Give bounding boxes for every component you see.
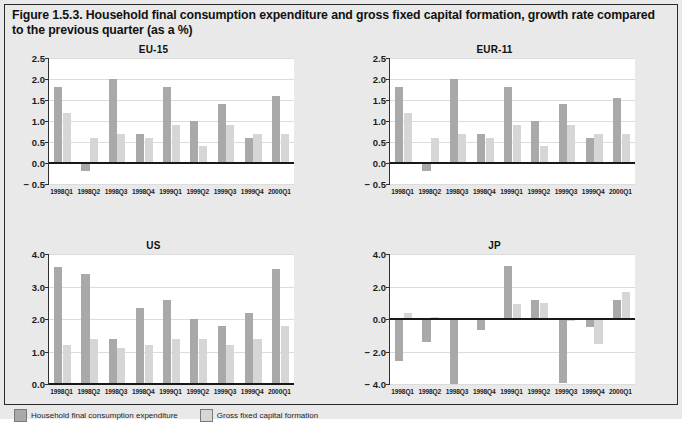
- bar: [226, 125, 234, 163]
- x-tick-label: 1998Q1: [50, 188, 73, 195]
- gridline: [390, 100, 635, 101]
- y-tick-mark: [45, 79, 49, 80]
- y-tick-mark: [45, 352, 49, 353]
- x-tick-label: 2000Q1: [268, 188, 291, 195]
- bar: [531, 121, 539, 163]
- y-tick-label: 2.5: [32, 53, 45, 64]
- bar: [253, 134, 261, 163]
- bar: [504, 266, 512, 319]
- y-tick-label: 0.0: [32, 379, 45, 390]
- bar: [63, 113, 71, 163]
- plot-inner: [390, 58, 635, 184]
- bar: [136, 308, 144, 384]
- chart-panel-us: US0.01.02.03.04.01998Q11998Q21998Q31998Q…: [14, 240, 293, 402]
- y-tick-mark: [386, 384, 390, 385]
- bar: [172, 339, 180, 385]
- panel-title: JP: [355, 240, 634, 251]
- bar: [540, 303, 548, 319]
- y-tick-mark: [386, 287, 390, 288]
- light-gray-swatch: [200, 409, 213, 422]
- y-tick-mark: [386, 100, 390, 101]
- x-tick-label: 1999Q1: [159, 188, 182, 195]
- x-tick-label: 1998Q3: [446, 188, 469, 195]
- x-tick-label: 1999Q3: [214, 188, 237, 195]
- legend: Household final consumption expenditureG…: [14, 409, 318, 422]
- x-tick-label: 1999Q3: [555, 388, 578, 395]
- bar: [63, 345, 71, 384]
- legend-item: Household final consumption expenditure: [14, 409, 178, 422]
- gridline: [390, 79, 635, 80]
- y-tick-mark: [386, 352, 390, 353]
- gridline: [390, 121, 635, 122]
- y-tick-mark: [45, 319, 49, 320]
- y-tick-label: − 2.0: [365, 346, 386, 357]
- gridline: [49, 254, 294, 255]
- y-tick-label: 0.5: [32, 137, 45, 148]
- x-tick-label: 1999Q1: [500, 388, 523, 395]
- y-tick-label: 1.5: [32, 95, 45, 106]
- bar: [586, 138, 594, 163]
- bar: [281, 134, 289, 163]
- y-axis-labels: 0.01.02.03.04.0: [14, 254, 48, 384]
- bar: [513, 304, 521, 319]
- x-tick-label: 1999Q4: [582, 388, 605, 395]
- gridline: [390, 254, 635, 255]
- x-tick-label: 1999Q3: [555, 188, 578, 195]
- bar: [559, 319, 567, 383]
- y-tick-mark: [45, 254, 49, 255]
- bar: [218, 326, 226, 385]
- gridline: [49, 100, 294, 101]
- bar: [172, 125, 180, 163]
- x-tick-label: 2000Q1: [609, 188, 632, 195]
- x-tick-label: 1999Q1: [159, 388, 182, 395]
- zero-baseline: [390, 318, 635, 320]
- bar: [136, 134, 144, 163]
- gridline: [49, 121, 294, 122]
- y-axis-labels: − 4.0− 2.00.02.04.0: [355, 254, 389, 384]
- plot-inner: [49, 254, 294, 384]
- bar: [190, 319, 198, 384]
- legend-label: Household final consumption expenditure: [31, 411, 178, 420]
- bar: [458, 134, 466, 163]
- gridline: [49, 58, 294, 59]
- y-axis-labels: − 0.50.00.51.01.52.02.5: [355, 58, 389, 184]
- x-tick-label: 1998Q2: [419, 188, 442, 195]
- legend-item: Gross fixed capital formation: [200, 409, 318, 422]
- bar: [253, 339, 261, 385]
- y-tick-label: − 0.5: [24, 179, 45, 190]
- plot-area: [48, 58, 294, 184]
- bar: [567, 125, 575, 163]
- figure-title: Figure 1.5.3. Household final consumptio…: [12, 8, 662, 38]
- bar: [54, 267, 62, 384]
- x-tick-label: 1999Q2: [186, 188, 209, 195]
- x-tick-label: 1998Q4: [473, 388, 496, 395]
- y-tick-label: 4.0: [32, 249, 45, 260]
- bar: [163, 300, 171, 385]
- bar: [477, 134, 485, 163]
- x-tick-label: 1999Q1: [500, 188, 523, 195]
- y-tick-label: 2.0: [32, 74, 45, 85]
- x-tick-label: 2000Q1: [609, 388, 632, 395]
- plot-area: [389, 58, 635, 184]
- legend-label: Gross fixed capital formation: [217, 411, 318, 420]
- y-tick-label: 1.0: [32, 116, 45, 127]
- y-tick-label: 1.0: [373, 116, 386, 127]
- panel-title: EUR-11: [355, 44, 634, 55]
- plot-area: [389, 254, 635, 384]
- y-tick-mark: [45, 287, 49, 288]
- plot-wrapper: − 0.50.00.51.01.52.02.5: [14, 58, 293, 184]
- bar: [404, 113, 412, 163]
- bar: [81, 163, 89, 171]
- bar: [559, 104, 567, 163]
- y-tick-label: 2.0: [32, 314, 45, 325]
- y-tick-mark: [386, 58, 390, 59]
- x-tick-label: 1999Q2: [527, 388, 550, 395]
- bar: [199, 339, 207, 385]
- y-tick-mark: [45, 184, 49, 185]
- bar: [145, 345, 153, 384]
- bar: [422, 163, 430, 171]
- bar: [613, 98, 621, 163]
- bar: [450, 79, 458, 163]
- bar: [272, 269, 280, 384]
